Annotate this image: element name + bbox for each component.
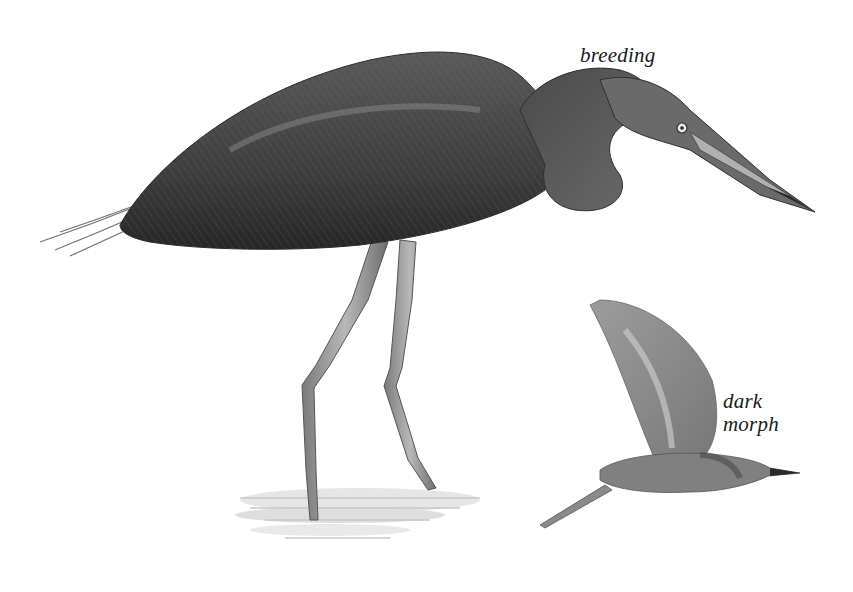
caption-dark-morph: dark morph <box>723 390 779 436</box>
caption-dark-line: dark <box>723 390 779 413</box>
caption-breeding: breeding <box>580 44 655 67</box>
legs <box>302 240 436 520</box>
heron-drawing <box>0 0 853 592</box>
flying-legs <box>540 485 612 528</box>
water-reflection <box>235 488 480 538</box>
bird-illustration: breeding dark morph <box>0 0 853 592</box>
flying-wing <box>590 300 717 470</box>
caption-morph-line: morph <box>723 413 779 436</box>
